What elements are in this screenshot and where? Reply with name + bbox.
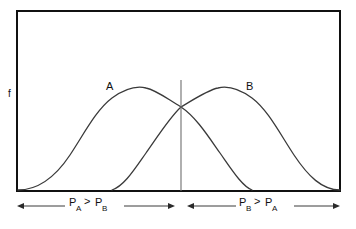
right-arrow-left-icon	[187, 203, 194, 209]
plot-frame	[17, 11, 340, 191]
right-region-measure: P B > P A	[187, 195, 340, 213]
right-region-label-operator: >	[254, 195, 260, 207]
y-axis-label: f	[8, 88, 11, 99]
right-region-label-sub1: B	[246, 204, 251, 213]
right-arrow-right-icon	[333, 203, 340, 209]
figure-container: f A B P A > P B P	[0, 0, 356, 229]
left-region-label-operator: >	[84, 195, 90, 207]
curve-a	[18, 87, 252, 190]
curve-label-a: A	[106, 80, 114, 92]
right-region-label-sub2: A	[272, 204, 278, 213]
left-region-label-sub1: A	[76, 204, 82, 213]
left-arrow-left-icon	[17, 203, 24, 209]
left-region-measure: P A > P B	[17, 195, 175, 213]
curve-label-b: B	[246, 80, 253, 92]
left-arrow-right-icon	[168, 203, 175, 209]
curve-b	[112, 87, 340, 190]
left-region-label-sub2: B	[102, 204, 107, 213]
